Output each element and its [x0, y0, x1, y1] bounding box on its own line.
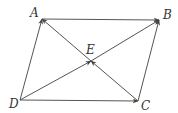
label-a: A [29, 6, 39, 20]
vector-de [20, 61, 91, 100]
label-c: C [141, 99, 150, 113]
vector-eb [91, 20, 159, 61]
vector-segments [20, 19, 159, 101]
parallelogram-diagram: A B C D E [0, 0, 178, 113]
vector-cb [138, 20, 159, 101]
vector-ab [42, 19, 159, 20]
label-e: E [85, 43, 95, 57]
vector-da [20, 19, 42, 100]
label-d: D [8, 97, 19, 111]
vector-ea [42, 19, 91, 61]
vector-ce [91, 61, 138, 101]
vector-dc [20, 100, 138, 101]
label-b: B [162, 8, 172, 22]
